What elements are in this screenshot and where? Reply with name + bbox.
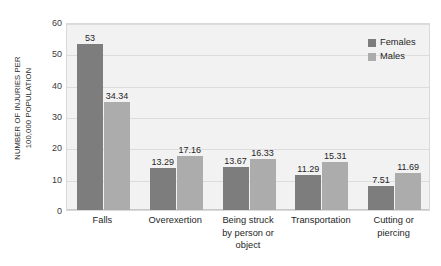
y-axis-title-line-2: 100,000 POPULATION	[23, 56, 34, 159]
bar-value-label: 11.29	[297, 164, 319, 174]
bar-females[interactable]: 11.29	[295, 175, 321, 210]
y-axis-tick-label: 60	[40, 18, 62, 28]
legend-item-females[interactable]: Females	[368, 36, 432, 49]
y-axis-title-line-1: NUMBER OF INJURIES PER	[12, 56, 23, 159]
bar-value-label: 13.29	[151, 157, 174, 167]
bar-males[interactable]: 34.34	[104, 102, 130, 210]
category-label-line: piercing	[357, 227, 430, 240]
legend-item-males[interactable]: Males	[368, 50, 432, 63]
bar-value-label: 34.34	[106, 91, 129, 101]
bar-males[interactable]: 11.69	[395, 173, 421, 210]
y-axis-tick-labels: 0102030405060	[40, 23, 62, 211]
bar-females[interactable]: 53	[77, 44, 103, 210]
category-label-line: Falls	[66, 214, 139, 227]
y-axis-tick-label: 20	[40, 143, 62, 153]
x-axis-category-label: Overexertion	[139, 214, 212, 227]
bar-value-label: 7.51	[372, 175, 390, 185]
bar-males[interactable]: 15.31	[322, 162, 348, 210]
bar-value-label: 53	[85, 33, 95, 43]
bar-chart: NUMBER OF INJURIES PER 100,000 POPULATIO…	[0, 0, 441, 266]
y-axis-tick-label: 30	[40, 112, 62, 122]
y-axis-tick-label: 10	[40, 175, 62, 185]
bar-group: 13.2917.16	[150, 24, 203, 210]
legend-swatch-icon	[368, 39, 376, 47]
bar-males[interactable]: 17.16	[177, 156, 203, 210]
bar-value-label: 16.33	[251, 148, 274, 158]
y-axis-tick-label: 0	[40, 206, 62, 216]
bar-group: 13.6716.33	[223, 24, 276, 210]
x-axis-category-labels: FallsOverexertionBeing struckby person o…	[66, 214, 430, 264]
category-label-line: Transportation	[284, 214, 357, 227]
category-label-line: Overexertion	[139, 214, 212, 227]
bar-females[interactable]: 13.29	[150, 168, 176, 210]
category-label-line: object	[212, 239, 285, 252]
x-axis-category-label: Transportation	[284, 214, 357, 227]
legend-label: Males	[380, 51, 405, 62]
bar-males[interactable]: 16.33	[250, 159, 276, 210]
x-axis-category-label: Cutting orpiercing	[357, 214, 430, 239]
bar-group: 5334.34	[77, 24, 130, 210]
category-label-line: Cutting or	[357, 214, 430, 227]
x-axis-category-label: Falls	[66, 214, 139, 227]
bar-value-label: 11.69	[397, 162, 419, 172]
x-axis-category-label: Being struckby person orobject	[212, 214, 285, 252]
bar-value-label: 15.31	[324, 151, 347, 161]
legend: FemalesMales	[368, 36, 432, 64]
y-axis-tick-label: 50	[40, 49, 62, 59]
category-label-line: Being struck	[212, 214, 285, 227]
bar-females[interactable]: 7.51	[368, 186, 394, 210]
bar-group: 11.2915.31	[295, 24, 348, 210]
y-axis-tick-label: 40	[40, 81, 62, 91]
bar-value-label: 13.67	[224, 156, 247, 166]
bar-value-label: 17.16	[178, 145, 201, 155]
bar-females[interactable]: 13.67	[223, 167, 249, 210]
legend-swatch-icon	[368, 53, 376, 61]
legend-label: Females	[380, 37, 416, 48]
category-label-line: by person or	[212, 227, 285, 240]
